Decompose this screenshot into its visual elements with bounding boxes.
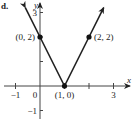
point-label: (1, 0): [55, 90, 75, 100]
data-point: [37, 34, 42, 39]
x-tick-label: 3: [111, 90, 116, 100]
series-line: [25, 8, 103, 86]
figure-label: d.: [1, 1, 8, 11]
point-label: (2, 2): [94, 32, 114, 42]
y-tick-label: 3: [33, 8, 38, 18]
point-label: (0, 2): [16, 32, 36, 42]
graph: d. xy−1033−1 (0, 2)(1, 0)(2, 2): [0, 0, 133, 122]
x-axis-label: x: [126, 75, 131, 85]
y-tick-label: −1: [27, 106, 37, 116]
data-point: [62, 83, 67, 88]
x-tick-label: −1: [11, 90, 21, 100]
x-tick-label: 0: [33, 90, 38, 100]
data-point: [86, 34, 91, 39]
